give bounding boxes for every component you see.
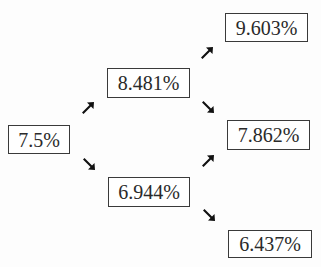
arrow-up-right-icon [199,45,215,61]
node-period1-up: 8.481% [107,68,190,98]
arrow-up-right-icon [80,100,96,116]
node-root: 7.5% [8,125,70,154]
node-period2-up-up-label: 9.603% [236,18,298,38]
node-period1-down: 6.944% [108,177,190,207]
node-period2-down-down-label: 6.437% [239,234,301,254]
arrow-up-right-icon [200,153,216,169]
node-period2-up-down-label: 7.862% [238,125,300,145]
node-period2-up-down: 7.862% [227,120,310,150]
node-period1-down-label: 6.944% [118,182,180,202]
arrow-down-right-icon [81,156,97,172]
node-root-label: 7.5% [18,130,60,150]
interest-rate-tree-diagram: 7.5% 8.481% 6.944% 9.603% 7.862% 6.437% [0,0,321,267]
arrow-down-right-icon [200,99,216,115]
node-period2-up-up: 9.603% [225,13,308,42]
node-period1-up-label: 8.481% [118,73,180,93]
arrow-down-right-icon [201,207,217,223]
node-period2-down-down: 6.437% [228,230,312,258]
